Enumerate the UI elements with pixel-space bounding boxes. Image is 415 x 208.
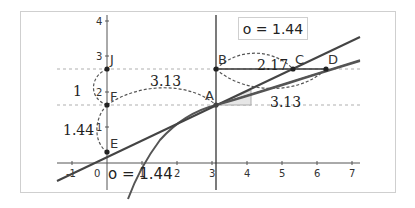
point-label-c: C: [295, 52, 304, 67]
point-c[interactable]: [290, 66, 295, 71]
y-tick-label: 4: [96, 16, 102, 27]
point-label-e: E: [110, 136, 118, 151]
x-tick-label: 5: [279, 168, 285, 179]
measure-bc: 2.17: [257, 57, 288, 73]
point-a[interactable]: [213, 102, 218, 107]
point-label-f: F: [110, 89, 117, 104]
measure-fe: 1.44: [63, 122, 94, 138]
value-label-o[interactable]: o = 1.44: [108, 165, 173, 183]
measure-fa: 3.13: [150, 73, 181, 89]
point-d[interactable]: [323, 66, 328, 71]
point-label-j: J: [109, 52, 114, 67]
point-e[interactable]: [104, 149, 109, 154]
point-label-b: B: [218, 52, 227, 67]
point-f[interactable]: [104, 102, 109, 107]
value-box-text: o = 1.44: [243, 21, 303, 37]
x-tick-label: 3: [209, 168, 215, 179]
value-box-o[interactable]: o = 1.44: [238, 17, 308, 40]
measure-ad: 3.13: [270, 94, 301, 110]
arc-fa: [107, 88, 216, 105]
x-tick-label: 4: [244, 168, 250, 179]
point-j[interactable]: [104, 66, 109, 71]
line-ea[interactable]: [57, 37, 360, 181]
x-tick-label: 0: [94, 168, 100, 179]
point-label-d: D: [328, 52, 338, 67]
x-tick-label: 7: [349, 168, 355, 179]
measure-jf: 1: [73, 83, 82, 99]
value-label-text: o = 1.44: [108, 165, 173, 183]
x-tick-label: 2: [174, 168, 180, 179]
y-tick-label: 3: [96, 51, 102, 62]
graphics-canvas[interactable]: -1 0 1 2 3 4 5 6 7 1 2 3 4 J F E A B C D…: [0, 0, 415, 208]
x-tick-label: 6: [314, 168, 320, 179]
point-b[interactable]: [213, 66, 218, 71]
point-label-a: A: [205, 88, 214, 103]
y-tick-label: 2: [96, 87, 102, 98]
